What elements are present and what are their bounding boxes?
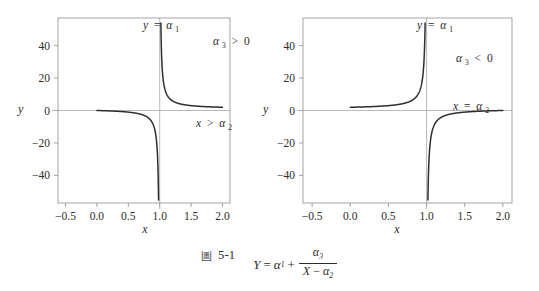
y-tick-label: 0: [289, 105, 295, 117]
y-tick-label: −20: [277, 137, 295, 149]
alpha3-sign-label-right: α 3 < 0: [456, 52, 493, 67]
x-tick-label: 0.0: [90, 210, 105, 222]
formula-plus: +: [287, 257, 294, 273]
x-axis-tick-labels-right: −0.50.00.51.01.52.0: [302, 210, 511, 222]
formula-denominator: X−α2: [299, 264, 337, 283]
formula-fraction: α3 X−α2: [299, 246, 337, 284]
curve-left-branch-left-panel: [97, 111, 159, 201]
x-axis-tick-labels-left: −0.50.00.51.01.52.0: [55, 210, 230, 222]
asymptote-y-label-right: y = α 1: [416, 19, 453, 34]
plot-svg-left: 40200−20−40 −0.50.00.51.01.52.0 y x y = …: [0, 0, 270, 245]
formula-numerator: α3: [309, 246, 327, 263]
y-axis-title-right: y: [262, 102, 269, 116]
axis-ticks-right: [299, 46, 503, 207]
formula-lhs: Y: [253, 257, 260, 273]
plot-panel-left: 40200−20−40 −0.50.00.51.01.52.0 y x y = …: [0, 0, 270, 245]
x-tick-label: −0.5: [302, 210, 323, 222]
plot-panel-right: 40200−20−40 −0.50.00.51.01.52.0 y x y = …: [245, 0, 539, 245]
x-tick-label: 2.0: [496, 210, 511, 222]
y-tick-label: 40: [284, 40, 296, 52]
y-tick-label: 0: [44, 105, 50, 117]
x-tick-label: −0.5: [55, 210, 76, 222]
formula-term1-sub: 1: [281, 260, 285, 269]
y-tick-label: 40: [39, 40, 51, 52]
y-axis-tick-labels-left: 40200−20−40: [32, 40, 50, 182]
formula-term1: α: [274, 257, 281, 273]
x-tick-label: 0.5: [381, 210, 396, 222]
x-axis-title-right: x: [393, 222, 400, 236]
y-tick-label: 20: [284, 72, 296, 84]
y-tick-label: −40: [277, 169, 295, 181]
figure-formula: Y = α1 + α3 X−α2: [253, 246, 338, 284]
plot-svg-right: 40200−20−40 −0.50.00.51.01.52.0 y x y = …: [245, 0, 539, 245]
x-tick-label: 0.5: [121, 210, 136, 222]
y-tick-label: 20: [39, 72, 51, 84]
curve-left-branch-right-panel: [350, 23, 425, 107]
y-axis-tick-labels-right: 40200−20−40: [277, 40, 295, 182]
domain-label-left: x > α 2: [195, 117, 232, 132]
x-tick-label: 1.0: [153, 210, 168, 222]
y-axis-title-left: y: [17, 102, 24, 116]
x-tick-label: 2.0: [215, 210, 230, 222]
y-tick-label: −40: [32, 169, 50, 181]
x-tick-label: 1.5: [184, 210, 199, 222]
figure-marker-glyph: 圖: [201, 251, 212, 262]
figure-container: 40200−20−40 −0.50.00.51.01.52.0 y x y = …: [0, 0, 539, 291]
figure-caption: 圖 5-1 Y = α1 + α3 X−α2: [0, 246, 539, 291]
x-tick-label: 1.5: [458, 210, 473, 222]
curve-right-branch-right-panel: [428, 111, 503, 201]
formula-equals: =: [263, 257, 270, 273]
y-tick-label: −20: [32, 137, 50, 149]
x-tick-label: 1.0: [419, 210, 434, 222]
x-axis-title-left: x: [141, 222, 148, 236]
x-tick-label: 0.0: [343, 210, 358, 222]
figure-number: 5-1: [218, 248, 235, 263]
